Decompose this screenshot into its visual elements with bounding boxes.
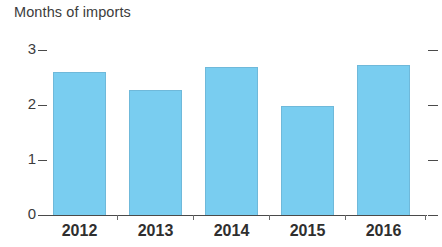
y-tick-mark-right-1 (428, 160, 438, 161)
bar-2016 (357, 65, 410, 215)
x-tick-mark-3 (269, 215, 270, 220)
x-tick-mark-5 (425, 215, 426, 220)
y-tick-mark-left-0 (38, 215, 47, 216)
x-tick-label-2016: 2016 (351, 222, 416, 240)
y-tick-mark-right-0 (428, 215, 438, 216)
plot-area: 3 2 1 0 2012 2013 2014 2015 2016 (0, 0, 442, 247)
x-axis-line (47, 215, 427, 216)
bar-2012 (53, 72, 106, 215)
x-tick-label-2013: 2013 (123, 222, 188, 240)
y-tick-mark-left-2 (38, 105, 47, 106)
bar-2015 (281, 106, 334, 215)
y-tick-mark-right-3 (428, 50, 438, 51)
x-tick-mark-4 (345, 215, 346, 220)
x-tick-mark-2 (193, 215, 194, 220)
x-tick-label-2014: 2014 (199, 222, 264, 240)
y-tick-label-3: 3 (16, 41, 36, 56)
y-tick-label-2: 2 (16, 96, 36, 111)
y-tick-mark-right-2 (428, 105, 438, 106)
bar-chart-figure: Months of imports 3 2 1 0 2012 2013 (0, 0, 442, 247)
y-tick-mark-left-3 (38, 50, 47, 51)
y-tick-label-1: 1 (16, 151, 36, 166)
bar-2014 (205, 67, 258, 216)
bar-2013 (129, 90, 182, 215)
x-tick-mark-1 (117, 215, 118, 220)
x-tick-label-2015: 2015 (275, 222, 340, 240)
x-tick-label-2012: 2012 (47, 222, 112, 240)
y-tick-label-0: 0 (16, 206, 36, 221)
y-tick-mark-left-1 (38, 160, 47, 161)
